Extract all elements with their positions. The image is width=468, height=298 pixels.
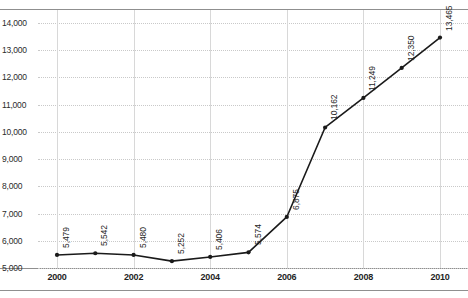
data-point-label: 5,542 [99,225,109,246]
data-point-label: 11,249 [367,66,377,91]
data-point [361,96,365,100]
data-point [400,66,404,70]
data-point [55,253,59,257]
data-point [132,253,136,257]
data-point [285,215,289,219]
data-point-label: 13,465 [444,5,454,30]
data-series [0,0,468,298]
data-point [323,125,327,129]
data-point [93,251,97,255]
data-point [208,255,212,259]
data-point-label: 5,406 [214,229,224,250]
series-line [57,38,440,262]
data-point-label: 10,162 [329,95,339,120]
data-point [438,35,442,39]
data-point [170,259,174,263]
data-point-label: 5,574 [253,225,263,246]
data-point-label: 5,252 [176,233,186,254]
chart-figure: 14,00013,00012,00011,00010,0009,0008,000… [0,0,468,298]
data-point-label: 5,480 [138,227,148,248]
data-point-label: 6,875 [291,189,301,210]
series-markers [55,35,442,263]
data-point-label: 12,350 [406,36,416,61]
data-point-label: 5,479 [61,227,71,248]
data-point [246,250,250,254]
